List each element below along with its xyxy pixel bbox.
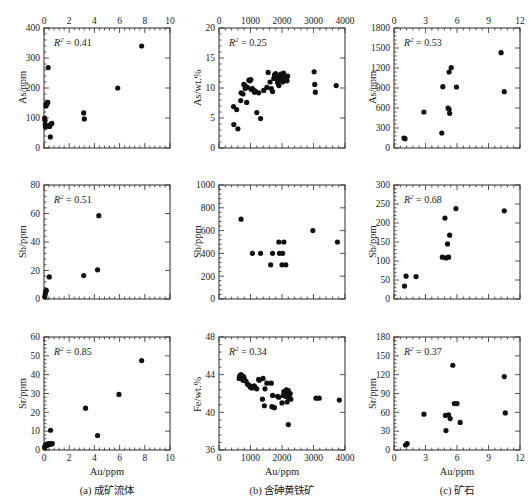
y-tick-label: 100	[26, 113, 41, 123]
x-tick-label-top: 2000	[273, 16, 292, 26]
y-axis-title-c3: Sr/ppm	[367, 378, 378, 409]
y-tick-label: 90	[381, 389, 391, 399]
y-tick-label: 40	[31, 237, 41, 247]
y-tick-label: 40	[31, 370, 41, 380]
data-points-a1	[42, 43, 144, 139]
x-tick-label-top: 10	[165, 16, 175, 26]
y-tick-label: 1000	[196, 180, 215, 190]
y-tick-label: 0	[385, 143, 390, 153]
x-tick-label: 0	[392, 453, 397, 463]
y-tick-label: 20	[31, 408, 41, 418]
x-tick-label: 1000	[241, 453, 260, 463]
y-tick-label: 80	[31, 180, 41, 190]
x-tick-label-top: 2	[67, 16, 72, 26]
y-tick-label: 1800	[371, 23, 390, 33]
x-tick-label: 3000	[304, 453, 323, 463]
data-points-b1	[231, 69, 339, 131]
x-tick-label: 4	[92, 453, 97, 463]
r-squared-label-c2: R2 = 0.68	[404, 193, 442, 205]
y-tick-label: 36	[206, 445, 216, 455]
x-tick-label: 2000	[273, 453, 292, 463]
x-tick-label-top: 0	[392, 16, 397, 26]
y-tick-label: 300	[26, 53, 41, 63]
x-tick-label: 12	[515, 453, 525, 463]
r-squared-label-a2: R2 = 0.51	[54, 193, 92, 205]
y-tick-label: 15	[206, 53, 216, 63]
y-axis-title-b2: Sb/ppm	[192, 225, 203, 258]
y-tick-label: 20	[31, 266, 41, 276]
r-squared-label-b1: R2 = 0.25	[229, 36, 267, 48]
x-tick-label: 6	[455, 453, 460, 463]
data-points-a3	[42, 358, 144, 450]
y-tick-label: 0	[35, 143, 40, 153]
y-axis-title-a1: As/ppm	[17, 70, 28, 103]
y-tick-label: 200	[201, 272, 216, 282]
x-tick-label: 4000	[336, 453, 355, 463]
x-tick-label-top: 6	[455, 16, 460, 26]
y-axis-title-c1: As/ppm	[367, 70, 378, 103]
y-tick-label: 60	[31, 209, 41, 219]
y-axis-title-c2: Sb/ppm	[367, 225, 378, 258]
y-tick-label: 800	[201, 203, 216, 213]
y-tick-label: 300	[376, 180, 391, 190]
y-tick-label: 400	[26, 23, 41, 33]
y-tick-label: 50	[31, 351, 41, 361]
x-tick-label: 2	[67, 453, 72, 463]
figure-scatter-matrix: 02468100100200300400R2 = 0.41As/ppm01000…	[0, 0, 531, 501]
y-axis-title-a3: Sr/ppm	[17, 378, 28, 409]
y-tick-label: 60	[381, 408, 391, 418]
x-tick-label: 8	[142, 453, 147, 463]
y-axis-title-b1: As/wt.%	[192, 70, 203, 106]
y-tick-label: 30	[31, 389, 41, 399]
x-tick-label-top: 3000	[304, 16, 323, 26]
x-tick-label-top: 1000	[241, 16, 260, 26]
data-points-b2	[238, 217, 340, 268]
r-squared-label-c1: R2 = 0.53	[404, 36, 442, 48]
y-tick-label: 48	[206, 332, 216, 342]
y-tick-label: 0	[385, 294, 390, 304]
data-points-b3	[237, 372, 342, 427]
data-points-c1	[401, 50, 506, 141]
panel-caption-a: (a) 成矿流体	[24, 482, 190, 497]
r-squared-label-a3: R2 = 0.85	[54, 345, 92, 357]
y-tick-label: 1500	[371, 43, 390, 53]
x-tick-label: 0	[42, 453, 47, 463]
x-tick-label: 6	[117, 453, 122, 463]
r-squared-label-b3: R2 = 0.34	[229, 345, 267, 357]
x-axis-title-b: Au/ppm	[219, 466, 345, 477]
x-axis-title-c: Au/ppm	[394, 466, 520, 477]
y-axis-title-b3: Fe/wt.%	[192, 376, 203, 411]
y-tick-label: 300	[376, 123, 391, 133]
x-tick-label: 9	[486, 453, 491, 463]
y-tick-label: 180	[376, 332, 391, 342]
x-tick-label-top: 8	[142, 16, 147, 26]
y-tick-label: 0	[35, 294, 40, 304]
x-tick-label: 3	[423, 453, 428, 463]
x-tick-label: 10	[165, 453, 175, 463]
y-tick-label: 0	[210, 143, 215, 153]
y-tick-label: 10	[206, 83, 216, 93]
y-tick-label: 5	[210, 113, 215, 123]
y-tick-label: 30	[381, 426, 391, 436]
y-tick-label: 0	[35, 445, 40, 455]
x-tick-label-top: 9	[486, 16, 491, 26]
y-axis-title-a2: Sb/ppm	[17, 225, 28, 258]
y-tick-label: 44	[206, 370, 216, 380]
y-tick-label: 150	[376, 351, 391, 361]
x-tick-label-top: 4000	[336, 16, 355, 26]
data-points-c2	[402, 206, 507, 289]
y-tick-label: 0	[385, 445, 390, 455]
data-points-a2	[42, 213, 101, 299]
x-tick-label-top: 0	[217, 16, 222, 26]
x-tick-label-top: 0	[42, 16, 47, 26]
x-tick-label-top: 4	[92, 16, 97, 26]
r-squared-label-a1: R2 = 0.41	[54, 36, 92, 48]
panel-caption-b: (b) 含砷黄铁矿	[199, 482, 365, 497]
x-tick-label-top: 3	[423, 16, 428, 26]
y-tick-label: 40	[206, 408, 216, 418]
y-tick-label: 20	[206, 23, 216, 33]
x-tick-label-top: 6	[117, 16, 122, 26]
y-tick-label: 250	[376, 199, 391, 209]
y-tick-label: 50	[381, 275, 391, 285]
y-tick-label: 60	[31, 332, 41, 342]
